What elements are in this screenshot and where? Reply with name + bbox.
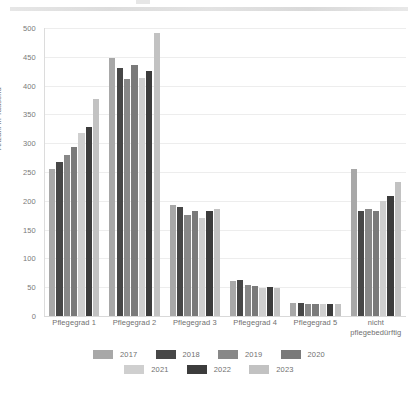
legend-swatch <box>124 365 144 374</box>
legend: 2017201820192020 202120222023 <box>0 350 418 380</box>
y-axis-tick-label: 500 <box>23 24 36 33</box>
bar-groups <box>44 28 406 316</box>
bar <box>335 304 341 316</box>
bar <box>312 304 318 316</box>
x-axis-tick-labels: Pflegegrad 1Pflegegrad 2Pflegegrad 3Pfle… <box>44 318 406 350</box>
bar-group <box>285 28 345 316</box>
x-axis-tick-label: Pflegegrad 5 <box>285 318 345 350</box>
bar <box>230 281 236 316</box>
bar <box>93 99 99 316</box>
legend-item[interactable]: 2020 <box>281 350 326 359</box>
bar <box>139 78 145 316</box>
legend-item[interactable]: 2023 <box>249 365 294 374</box>
bar-group <box>44 28 104 316</box>
y-axis-tick-label: 0 <box>32 312 36 321</box>
bar <box>71 147 77 316</box>
bar <box>373 211 379 316</box>
bar <box>387 196 393 316</box>
chart-page: Anzahl in Tausend 0501001502002503003504… <box>0 0 418 400</box>
bar <box>267 287 273 316</box>
bar <box>365 209 371 316</box>
legend-swatch <box>187 365 207 374</box>
x-axis-tick-label-line: Pflegegrad 3 <box>165 318 225 328</box>
bar <box>320 304 326 316</box>
scan-artifact-band <box>10 7 408 11</box>
y-axis-tick-label: 400 <box>23 81 36 90</box>
x-axis-tick-label: nichtpflegebedürftig <box>346 318 406 350</box>
plot-area <box>44 28 406 316</box>
scan-artifact-speck <box>136 0 150 4</box>
bar <box>177 207 183 316</box>
x-axis-tick-label: Pflegegrad 3 <box>165 318 225 350</box>
bar <box>358 211 364 316</box>
bar <box>86 127 92 316</box>
bar <box>274 288 280 316</box>
x-axis-tick-label: Pflegegrad 4 <box>225 318 285 350</box>
bar <box>192 211 198 316</box>
bar <box>298 303 304 316</box>
x-axis-tick-label-line: Pflegegrad 4 <box>225 318 285 328</box>
bar-group <box>104 28 164 316</box>
y-axis-tick-label: 250 <box>23 168 36 177</box>
bar <box>109 58 115 316</box>
legend-swatch <box>156 350 176 359</box>
bar <box>380 201 386 316</box>
bar <box>184 215 190 316</box>
bar <box>351 169 357 316</box>
bar <box>124 79 130 316</box>
bar <box>259 288 265 316</box>
x-axis-tick-label-line: nicht <box>346 318 406 328</box>
legend-label: 2018 <box>183 350 201 359</box>
y-axis-tick-label: 50 <box>27 283 36 292</box>
legend-item[interactable]: 2022 <box>187 365 232 374</box>
legend-item[interactable]: 2019 <box>218 350 263 359</box>
x-axis-tick-label-line: Pflegegrad 1 <box>44 318 104 328</box>
bar <box>131 65 137 316</box>
legend-item[interactable]: 2017 <box>93 350 138 359</box>
bar <box>199 218 205 316</box>
bar <box>245 285 251 316</box>
legend-label: 2019 <box>245 350 263 359</box>
bar <box>237 280 243 316</box>
legend-label: 2021 <box>151 365 169 374</box>
bar <box>117 68 123 316</box>
legend-swatch <box>93 350 113 359</box>
legend-label: 2023 <box>276 365 294 374</box>
gridline <box>44 316 406 317</box>
y-axis-tick-label: 350 <box>23 110 36 119</box>
bar <box>154 33 160 316</box>
legend-item[interactable]: 2018 <box>156 350 201 359</box>
bar <box>305 304 311 316</box>
legend-item[interactable]: 2021 <box>124 365 169 374</box>
legend-label: 2017 <box>120 350 138 359</box>
legend-swatch <box>218 350 238 359</box>
legend-swatch <box>249 365 269 374</box>
x-axis-tick-label-line: pflegebedürftig <box>346 328 406 338</box>
bar <box>252 286 258 316</box>
bar <box>327 304 333 316</box>
legend-row-bottom: 202120222023 <box>0 365 418 374</box>
bar <box>206 211 212 316</box>
y-axis-tick-label: 150 <box>23 225 36 234</box>
bar <box>78 133 84 316</box>
bar <box>170 205 176 316</box>
bar <box>56 162 62 316</box>
bar-group <box>165 28 225 316</box>
bar <box>395 182 401 316</box>
legend-label: 2022 <box>214 365 232 374</box>
y-axis-tick-label: 200 <box>23 196 36 205</box>
y-axis-tick-label: 300 <box>23 139 36 148</box>
legend-label: 2020 <box>308 350 326 359</box>
bar-group <box>346 28 406 316</box>
x-axis-tick-label-line: Pflegegrad 5 <box>285 318 345 328</box>
bar <box>64 155 70 316</box>
x-axis-tick-label: Pflegegrad 1 <box>44 318 104 350</box>
bar <box>214 209 220 316</box>
y-axis-tick-label: 100 <box>23 254 36 263</box>
x-axis-tick-label: Pflegegrad 2 <box>104 318 164 350</box>
bar <box>290 303 296 316</box>
x-axis-tick-label-line: Pflegegrad 2 <box>104 318 164 328</box>
bar <box>49 169 55 316</box>
bar-group <box>225 28 285 316</box>
y-axis-tick-label: 450 <box>23 52 36 61</box>
